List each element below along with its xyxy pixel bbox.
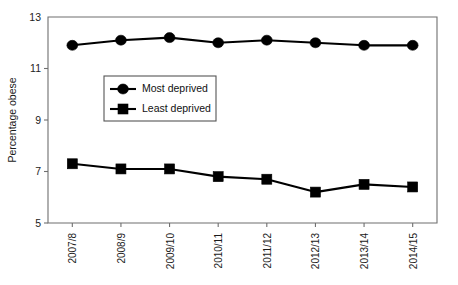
y-tick: 11	[30, 62, 48, 74]
y-tick: 13	[29, 11, 41, 23]
y-tick-label: 9	[35, 114, 41, 126]
series-1	[67, 33, 418, 51]
data-point-marker	[310, 38, 321, 48]
x-tick-label: 2011/12	[262, 233, 273, 269]
x-tick-label: 2007/8	[67, 233, 78, 264]
data-point-marker	[408, 182, 418, 192]
data-point-marker	[67, 40, 78, 50]
series-2	[67, 159, 417, 197]
x-tick: 2013/14	[359, 223, 370, 269]
legend-item-2[interactable]: Least deprived	[110, 102, 211, 114]
y-tick: 9	[35, 114, 48, 126]
y-tick-label: 7	[35, 165, 41, 177]
x-tick: 2014/15	[408, 223, 419, 269]
chart-container: 5791113 Percentage obese 2007/82008/9200…	[0, 0, 458, 285]
data-point-marker	[407, 40, 418, 50]
x-tick-label: 2008/9	[116, 233, 127, 264]
y-tick-label: 5	[35, 217, 41, 229]
data-point-marker	[67, 159, 77, 169]
data-point-marker	[165, 164, 175, 174]
x-tick: 2011/12	[262, 223, 273, 268]
y-tick-label: 11	[30, 62, 41, 74]
y-tick-label: 13	[29, 11, 41, 23]
data-point-marker	[359, 40, 370, 50]
x-tick-label: 2014/15	[408, 233, 419, 270]
data-point-marker	[359, 179, 369, 189]
legend-marker-square-icon	[118, 104, 128, 114]
y-axis-ticks: 5791113	[29, 11, 48, 229]
x-tick-label: 2010/11	[213, 233, 224, 269]
x-tick-label: 2012/13	[310, 233, 321, 270]
data-point-marker	[213, 172, 223, 182]
data-point-marker	[116, 35, 127, 45]
x-tick-label: 2009/10	[165, 233, 176, 270]
chart-legend: Most deprivedLeast deprived	[104, 76, 216, 121]
x-tick-label: 2013/14	[359, 233, 370, 270]
data-point-marker	[116, 164, 126, 174]
legend-label: Most deprived	[142, 82, 208, 94]
x-axis-ticks: 2007/82008/92009/102010/112011/122012/13…	[67, 223, 418, 269]
line-chart: 5791113 Percentage obese 2007/82008/9200…	[0, 0, 458, 285]
data-point-marker	[213, 38, 224, 48]
legend-item-1[interactable]: Most deprived	[110, 82, 208, 94]
data-point-marker	[310, 187, 320, 197]
x-tick: 2007/8	[67, 223, 78, 264]
data-point-marker	[261, 35, 272, 45]
y-axis-title: Percentage obese	[6, 77, 18, 162]
x-tick: 2009/10	[165, 223, 176, 269]
y-tick: 7	[35, 165, 48, 177]
y-tick: 5	[35, 217, 48, 229]
x-tick: 2008/9	[116, 223, 127, 264]
legend-label: Least deprived	[142, 102, 211, 114]
x-tick: 2012/13	[310, 223, 321, 269]
legend-marker-circle-icon	[118, 84, 129, 94]
data-point-marker	[262, 174, 272, 184]
data-point-marker	[164, 33, 175, 43]
x-tick: 2010/11	[213, 223, 224, 268]
